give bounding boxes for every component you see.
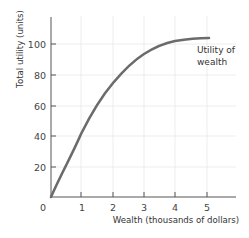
y-tick-label: 20 bbox=[34, 162, 46, 173]
curve-label-line1: Utility of bbox=[197, 45, 236, 55]
origin-label: 0 bbox=[40, 202, 46, 213]
x-tick-label: 3 bbox=[141, 202, 147, 213]
y-axis-title: Total utility (units) bbox=[15, 10, 25, 89]
y-tick-label: 80 bbox=[34, 70, 46, 81]
curve-label-line2: wealth bbox=[197, 57, 227, 67]
y-tick-label: 100 bbox=[28, 39, 46, 50]
x-tick-label: 5 bbox=[204, 202, 210, 213]
utility-chart: 20 40 60 80 100 0 1 2 3 4 5 Total utilit… bbox=[0, 0, 249, 238]
x-tick-label: 1 bbox=[79, 202, 85, 213]
x-axis-title: Wealth (thousands of dollars) bbox=[113, 215, 239, 225]
y-ticks bbox=[51, 44, 56, 167]
x-tick-label: 4 bbox=[172, 202, 178, 213]
x-ticks bbox=[81, 192, 207, 197]
y-tick-label: 60 bbox=[34, 101, 46, 112]
utility-curve bbox=[51, 38, 209, 197]
y-tick-label: 40 bbox=[34, 131, 46, 142]
gridlines bbox=[51, 16, 236, 197]
x-tick-label: 2 bbox=[110, 202, 116, 213]
